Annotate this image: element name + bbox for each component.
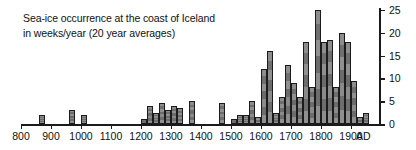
y-axis-tick-label: 10 [389, 72, 401, 84]
x-axis-tick-label: 800 [12, 130, 30, 142]
x-axis-tick-label: 1000 [69, 130, 92, 142]
y-axis-line [379, 8, 381, 126]
x-axis-tick [141, 124, 142, 129]
x-axis-unit-label: AD [356, 130, 371, 142]
y-axis-tick-label: 20 [389, 27, 401, 39]
x-axis-tick [321, 124, 322, 129]
x-axis-tick [291, 124, 292, 129]
y-axis-tick-label: 0 [389, 118, 395, 130]
y-axis-tick [379, 56, 385, 58]
plot-area: 8009001000110012001300140015001600170018… [0, 0, 416, 150]
x-axis-tick [201, 124, 202, 129]
y-axis-tick [379, 33, 385, 35]
x-axis-tick [171, 124, 172, 129]
x-axis-tick [81, 124, 82, 129]
x-axis-tick-label: 1600 [249, 130, 272, 142]
y-axis-tick [379, 10, 385, 12]
x-axis-tick-label: 1500 [219, 130, 242, 142]
x-axis-tick [111, 124, 112, 129]
y-axis-tick [379, 101, 385, 103]
y-axis-tick [379, 124, 385, 126]
bar [69, 110, 75, 124]
bar [219, 103, 225, 124]
y-axis-tick [379, 78, 385, 80]
x-axis-tick [351, 124, 352, 129]
y-axis-tick-label: 15 [389, 50, 401, 62]
y-axis-tick-label: 5 [389, 95, 395, 107]
x-axis-tick [21, 124, 22, 129]
bar [363, 113, 369, 124]
x-axis-tick-label: 1400 [189, 130, 212, 142]
bar [39, 115, 45, 124]
x-axis-tick-label: 1100 [100, 130, 123, 142]
x-axis-tick-label: 900 [42, 130, 60, 142]
x-axis-tick-label: 1700 [279, 130, 302, 142]
x-axis-tick [231, 124, 232, 129]
bar [81, 115, 87, 124]
bar [189, 101, 195, 124]
sea-ice-chart-figure: Sea-ice occurrence at the coast of Icela… [0, 0, 416, 150]
bar [177, 108, 183, 124]
x-axis-tick-label: 1300 [159, 130, 182, 142]
x-axis-tick [51, 124, 52, 129]
x-axis-tick [261, 124, 262, 129]
x-axis-tick-label: 1200 [129, 130, 152, 142]
y-axis-tick-label: 25 [389, 4, 401, 16]
x-axis-tick-label: 1800 [309, 130, 332, 142]
